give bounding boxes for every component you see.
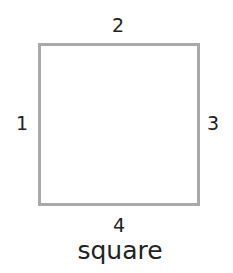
side-label-bottom: 4 [109, 215, 129, 235]
square-shape [38, 43, 200, 206]
side-label-right: 3 [203, 113, 223, 133]
shape-caption: square [60, 237, 180, 265]
side-label-left: 1 [12, 113, 32, 133]
side-label-top: 2 [108, 15, 128, 35]
